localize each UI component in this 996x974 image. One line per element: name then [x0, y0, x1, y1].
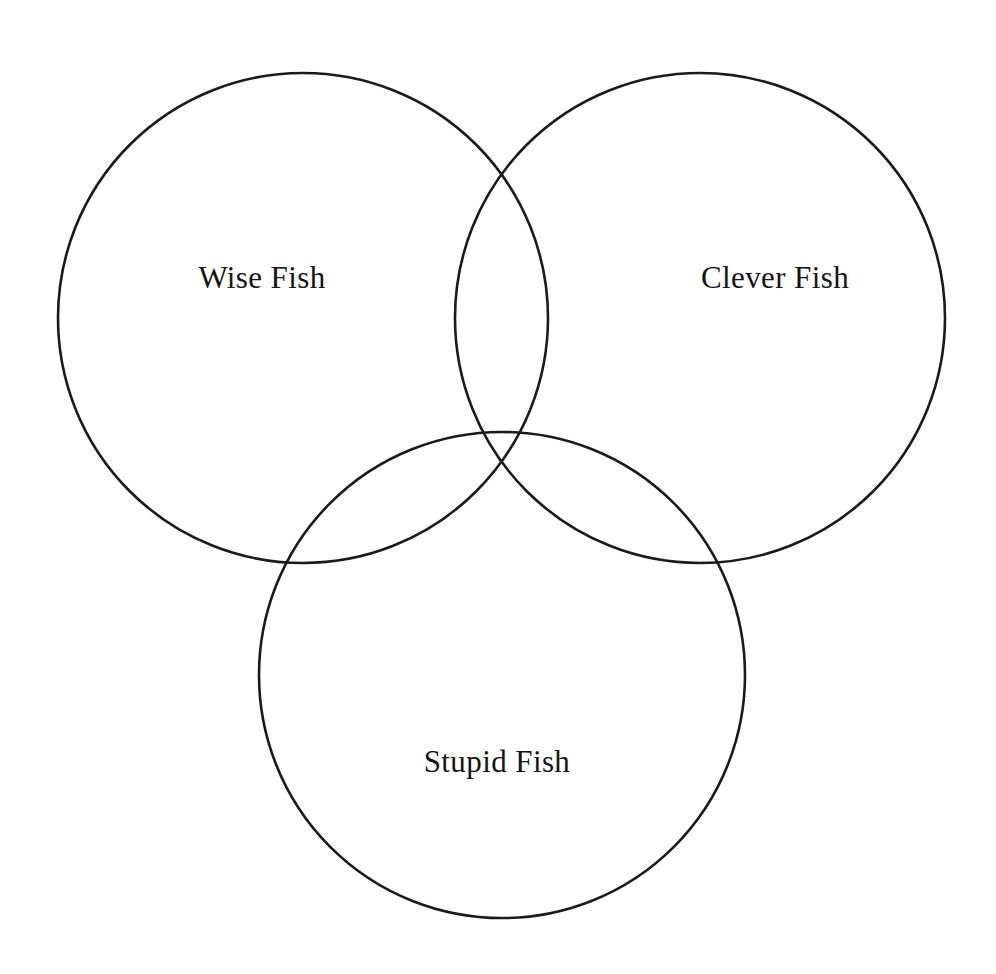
venn-label-clever-fish: Clever Fish: [701, 260, 849, 295]
venn-diagram-canvas: Wise Fish Clever Fish Stupid Fish: [0, 0, 996, 974]
venn-diagram-svg: Wise Fish Clever Fish Stupid Fish: [0, 0, 996, 974]
venn-label-stupid-fish: Stupid Fish: [424, 744, 571, 779]
venn-label-wise-fish: Wise Fish: [198, 260, 325, 295]
diagram-background: [0, 0, 996, 974]
